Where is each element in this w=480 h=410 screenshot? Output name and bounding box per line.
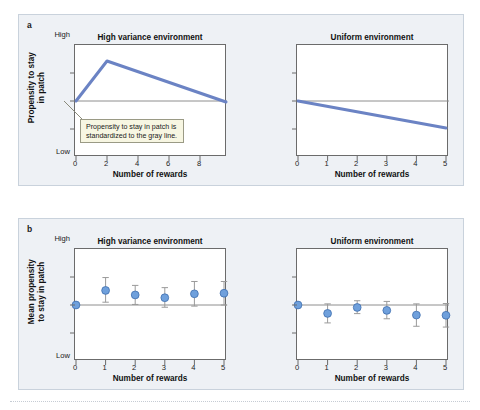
panel-a-right-svg (297, 45, 449, 157)
data-point-marker (442, 311, 450, 319)
panel-a-right-xtick-4: 4 (407, 159, 423, 168)
panel-a-left-xtick-0: 0 (67, 159, 83, 168)
panel-a-left-xlabel: Number of rewards (74, 170, 226, 180)
figure-container: a Propensity to stay in patch High Low H… (0, 0, 480, 410)
data-point-marker (413, 311, 421, 319)
data-point-marker (102, 287, 110, 295)
panel-b-right-xtick-1: 1 (319, 363, 335, 372)
panel-a-left-title: High variance environment (74, 33, 226, 42)
panel-a-y-high-label: High (44, 30, 70, 39)
panel-a-right-plot (296, 44, 448, 156)
panel-b-left-plot (74, 248, 226, 360)
panel-b-left-svg (75, 249, 227, 361)
callout-box: Propensity to stay in patch is standardi… (80, 119, 184, 143)
panel-b-left-xtick-3: 3 (156, 363, 172, 372)
panel-b-right-xtick-5: 5 (437, 363, 453, 372)
data-point-marker (191, 290, 199, 298)
panel-a-right-xtick-3: 3 (378, 159, 394, 168)
panel-b-left-xtick-1: 1 (97, 363, 113, 372)
footer-divider (10, 401, 470, 403)
panel-b-y-high-label: High (44, 234, 70, 243)
panel-a-right-yticks (292, 45, 302, 157)
panel-b-right-plot (296, 248, 448, 360)
data-point-marker (161, 294, 169, 302)
panel-a-left-xtick-3: 6 (160, 159, 176, 168)
panel-a-letter: a (27, 20, 32, 30)
panel-b-right-xtick-0: 0 (289, 363, 305, 372)
data-point-marker (324, 310, 332, 318)
panel-b-right-xtick-4: 4 (407, 363, 423, 372)
data-point-marker (353, 304, 361, 312)
panel-b-right-yticks (292, 249, 302, 361)
data-point-marker (220, 289, 228, 297)
uniform-curve (298, 101, 446, 128)
panel-b-left-title: High variance environment (74, 237, 226, 246)
high-variance-curve (76, 61, 226, 102)
panel-b-right-svg (297, 249, 449, 361)
panel-b-ylabel: Mean propensity to stay in patch (27, 237, 46, 347)
panel-b-right-title: Uniform environment (296, 237, 448, 246)
panel-b-right-xtick-2: 2 (348, 363, 364, 372)
panel-a-right-xlabel: Number of rewards (296, 170, 448, 180)
panel-a-right-xtick-0: 0 (289, 159, 305, 168)
panel-b-left-yticks (70, 249, 80, 361)
panel-a-ylabel: Propensity to stay in patch (27, 33, 46, 143)
panel-b-left-xtick-5: 5 (215, 363, 231, 372)
panel-a-right-title: Uniform environment (296, 33, 448, 42)
data-point-marker (131, 291, 139, 299)
panel-a-left-xtick-4: 8 (191, 159, 207, 168)
data-point-marker (383, 306, 391, 314)
panel-b-right-xlabel: Number of rewards (296, 374, 448, 384)
panel-b-left-xtick-2: 2 (126, 363, 142, 372)
panel-a-left-xtick-1: 2 (98, 159, 114, 168)
panel-b-left-xtick-4: 4 (185, 363, 201, 372)
panel-a-right-xtick-1: 1 (319, 159, 335, 168)
panel-b-letter: b (27, 224, 32, 234)
panel-b-right-xtick-3: 3 (378, 363, 394, 372)
panel-b-left-xlabel: Number of rewards (74, 374, 226, 384)
panel-a-y-low-label: Low (44, 147, 70, 156)
panel-a-left-xtick-2: 4 (129, 159, 145, 168)
panel-b-y-low-label: Low (44, 351, 70, 360)
panel-b-left-xtick-0: 0 (67, 363, 83, 372)
panel-a-right-xtick-2: 2 (348, 159, 364, 168)
panel-a-right-xtick-5: 5 (437, 159, 453, 168)
